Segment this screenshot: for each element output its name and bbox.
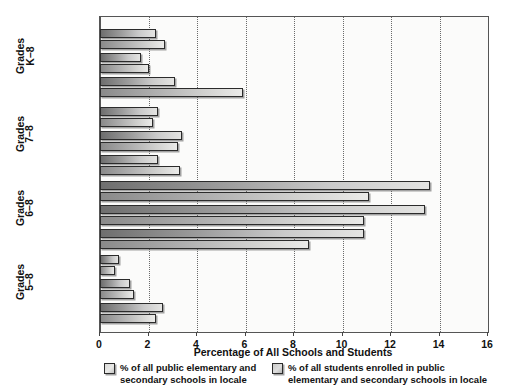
tickmark-8 xyxy=(293,332,294,336)
bar-schools xyxy=(100,53,141,62)
gridline-6 xyxy=(246,17,247,332)
tickmark-0 xyxy=(99,332,100,336)
bar-chart: Grades K–8 Grades 7–8 Grades 6–8 Grades … xyxy=(0,0,513,388)
group-label-78: Grades 7–8 xyxy=(0,104,60,166)
group-label-line2: 6–8 xyxy=(23,199,35,217)
bar-students xyxy=(100,266,115,275)
bar-schools xyxy=(100,107,158,116)
tickmark-12 xyxy=(390,332,391,336)
tickmark-14 xyxy=(439,332,440,336)
bar-schools xyxy=(100,155,158,164)
gridline-8 xyxy=(294,17,295,332)
group-label-line2: K–8 xyxy=(24,46,36,65)
bar-schools xyxy=(100,29,156,38)
bar-students xyxy=(100,118,153,127)
tickmark-6 xyxy=(245,332,246,336)
bar-students xyxy=(100,166,180,175)
bar-students xyxy=(100,88,243,97)
bar-schools xyxy=(100,229,364,238)
bar-students xyxy=(100,240,309,249)
bar-students xyxy=(100,142,178,151)
group-label-line2: 7–8 xyxy=(23,125,35,143)
bar-students xyxy=(100,290,134,299)
gridline-4 xyxy=(197,17,198,332)
bar-schools xyxy=(100,279,130,288)
legend: % of all public elementary and secondary… xyxy=(0,362,513,388)
gridline-14 xyxy=(440,17,441,332)
tickmark-4 xyxy=(196,332,197,336)
group-label-line2: 5–8 xyxy=(23,273,35,291)
bar-schools xyxy=(100,77,175,86)
bar-schools xyxy=(100,303,163,312)
legend-label: % of all public elementary and secondary… xyxy=(120,362,256,385)
tickmark-2 xyxy=(148,332,149,336)
bar-students xyxy=(100,192,369,201)
legend-label: % of all students enrolled in public ele… xyxy=(288,362,487,385)
legend-swatch-icon xyxy=(104,363,115,374)
legend-item-students[interactable]: % of all students enrolled in public ele… xyxy=(272,362,487,385)
bar-schools xyxy=(100,131,182,140)
bar-students xyxy=(100,216,364,225)
bar-students xyxy=(100,40,165,49)
x-axis-label: Percentage of All Schools and Students xyxy=(99,346,487,358)
tickmark-10 xyxy=(342,332,343,336)
gridline-10 xyxy=(343,17,344,332)
bar-schools xyxy=(100,181,430,190)
group-label-68: Grades 6–8 xyxy=(0,178,60,240)
group-label-k8: Grades K–8 xyxy=(0,26,60,88)
bar-schools xyxy=(100,255,119,264)
gridline-12 xyxy=(391,17,392,332)
tickmark-16 xyxy=(487,332,488,336)
bar-schools xyxy=(100,205,425,214)
legend-item-schools[interactable]: % of all public elementary and secondary… xyxy=(104,362,256,385)
legend-swatch-icon xyxy=(272,363,283,374)
plot-area xyxy=(99,16,489,333)
bar-students xyxy=(100,64,149,73)
gridline-16 xyxy=(488,17,489,332)
bar-students xyxy=(100,314,156,323)
group-label-58: Grades 5–8 xyxy=(0,252,60,314)
